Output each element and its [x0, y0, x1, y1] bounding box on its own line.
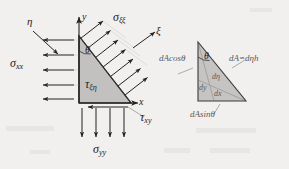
- left-theta-label: θ: [85, 45, 90, 55]
- dy-inner-label: dy: [199, 84, 207, 92]
- tau-xy-subscript: xy: [144, 116, 151, 125]
- sigma-xx-subscript: xx: [16, 62, 23, 71]
- axis-label-xi: ξ: [156, 25, 161, 36]
- da-hypotenuse-label: dA=dηh: [229, 54, 259, 63]
- dacos-theta-label: dAcosθ: [159, 54, 185, 63]
- sigma-yy-arrow-group: [82, 108, 124, 137]
- left-face-guides: [43, 40, 79, 85]
- sigma-yy-subscript: yy: [99, 148, 106, 157]
- right-theta-label: θ: [204, 51, 209, 61]
- tau-xieta-subscript: ξη: [89, 83, 97, 92]
- sigma-xx-label: σxx: [10, 57, 23, 71]
- axis-label-y: y: [82, 12, 86, 22]
- dx-inner-label: dx: [214, 90, 222, 98]
- d-eta-inner-label: dη: [212, 73, 220, 81]
- xi-axis-arrow: [133, 32, 155, 48]
- eta-axis-arrow: [33, 31, 58, 54]
- dasin-theta-label: dAsinθ: [190, 110, 215, 119]
- figure-canvas: y x η ξ θ σxx σyy σξξ τξη τxy θ dAcosθ d…: [0, 0, 289, 169]
- tau-xy-label: τxy: [140, 111, 152, 125]
- tau-xieta-label: τξη: [85, 78, 97, 92]
- diagram-vector-layer: [0, 0, 289, 169]
- sigma-yy-label: σyy: [93, 143, 106, 157]
- sigma-xx-arrow-group: [43, 40, 74, 99]
- axis-label-x: x: [139, 97, 143, 107]
- axis-label-eta: η: [27, 16, 32, 27]
- sigma-xixi-label: σξξ: [113, 11, 126, 25]
- sigma-xixi-subscript: ξξ: [119, 16, 126, 25]
